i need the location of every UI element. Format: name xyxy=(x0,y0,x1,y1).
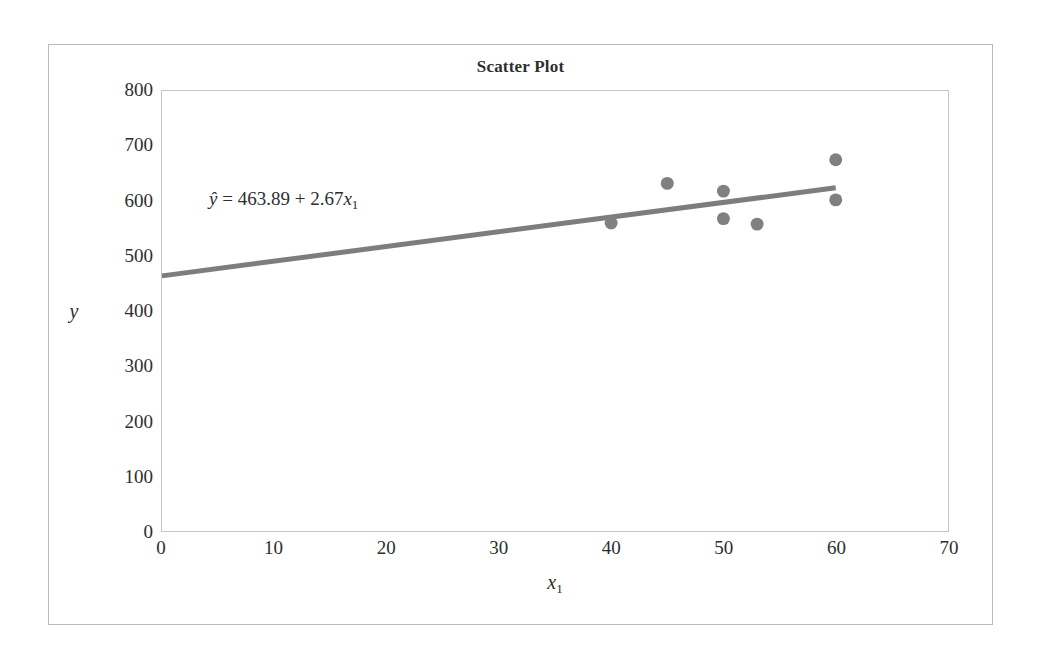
y-axis-tick-labels: 0100200300400500600700800 xyxy=(89,90,153,532)
y-tick-label: 0 xyxy=(144,521,154,543)
scatter-point xyxy=(661,177,674,190)
scatter-point xyxy=(605,217,618,230)
y-tick-label: 100 xyxy=(125,466,154,488)
y-tick-label: 700 xyxy=(125,134,154,156)
y-tick-label: 800 xyxy=(125,79,154,101)
y-tick-label: 600 xyxy=(125,190,154,212)
scatter-point xyxy=(829,193,842,206)
plot-area xyxy=(161,90,949,532)
y-tick-label: 300 xyxy=(125,355,154,377)
y-tick-label: 400 xyxy=(125,300,154,322)
x-axis-title-subscript: 1 xyxy=(556,581,563,596)
scatter-point xyxy=(751,218,764,231)
figure-frame: Scatter Plot y 0100200300400500600700800… xyxy=(48,44,993,625)
scatter-point xyxy=(717,185,730,198)
x-axis-tick-labels: 010203040506070 xyxy=(161,537,949,567)
x-axis-title-base: x xyxy=(547,571,556,593)
x-axis-title: x1 xyxy=(161,571,949,597)
x-tick-label: 50 xyxy=(714,537,733,559)
plot-canvas xyxy=(162,91,948,531)
x-tick-label: 30 xyxy=(489,537,508,559)
x-tick-label: 20 xyxy=(377,537,396,559)
chart-title: Scatter Plot xyxy=(49,57,992,77)
scatter-point xyxy=(829,153,842,166)
x-tick-label: 70 xyxy=(940,537,959,559)
x-tick-label: 0 xyxy=(156,537,166,559)
x-tick-label: 10 xyxy=(264,537,283,559)
y-tick-label: 500 xyxy=(125,245,154,267)
scatter-point xyxy=(717,212,730,225)
regression-trendline xyxy=(162,188,836,276)
x-tick-label: 60 xyxy=(827,537,846,559)
y-tick-label: 200 xyxy=(125,411,154,433)
x-tick-label: 40 xyxy=(602,537,621,559)
y-axis-title: y xyxy=(61,90,87,532)
